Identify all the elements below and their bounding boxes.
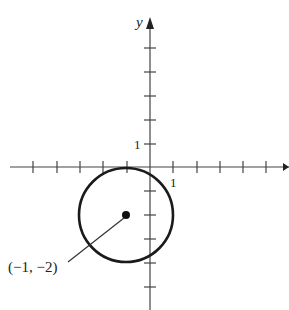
x-tick-label-1: 1 <box>170 175 177 190</box>
y-axis-label: y <box>134 14 143 30</box>
center-point <box>122 211 130 219</box>
x-axis-arrow-icon <box>283 163 289 171</box>
y-axis-arrow-icon <box>146 17 154 29</box>
coordinate-plane: y 1 1 (−1, −2) <box>0 0 289 310</box>
leader-line <box>68 218 124 262</box>
center-point-label: (−1, −2) <box>8 259 57 276</box>
y-tick-label-1: 1 <box>134 137 141 152</box>
